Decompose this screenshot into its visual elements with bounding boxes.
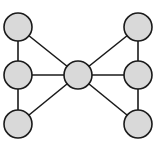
node-bottom-left: [4, 110, 32, 138]
node-top-right: [124, 13, 152, 41]
graph-diagram: [0, 0, 162, 153]
node-center: [64, 61, 92, 89]
node-middle-left: [4, 61, 32, 89]
node-top-left: [4, 13, 32, 41]
node-middle-right: [124, 61, 152, 89]
node-bottom-right: [124, 110, 152, 138]
